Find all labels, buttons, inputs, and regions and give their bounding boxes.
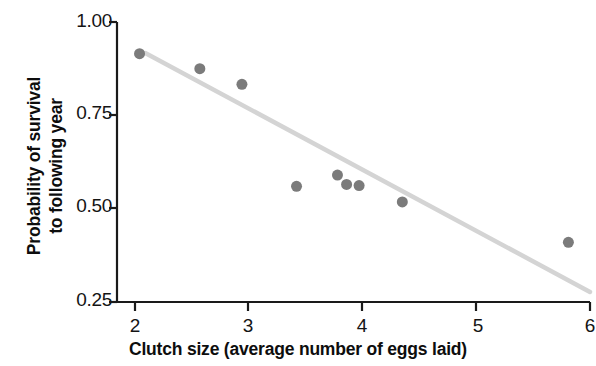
- data-point: [194, 63, 205, 74]
- scatter-plot-figure: Probability of survival to following yea…: [0, 0, 596, 366]
- data-point: [291, 181, 302, 192]
- data-point: [332, 170, 343, 181]
- data-point: [354, 180, 365, 191]
- data-point-group: [134, 48, 574, 248]
- data-point: [134, 48, 145, 59]
- y-tick-marks: [109, 22, 117, 302]
- plot-area: [0, 0, 596, 366]
- x-axis-title: Clutch size (average number of eggs laid…: [0, 339, 596, 360]
- data-point: [563, 237, 574, 248]
- axes: [117, 22, 590, 302]
- x-tick-marks: [135, 302, 590, 311]
- data-point: [236, 79, 247, 90]
- data-point: [397, 196, 408, 207]
- data-point: [341, 179, 352, 190]
- trend-line: [145, 53, 590, 292]
